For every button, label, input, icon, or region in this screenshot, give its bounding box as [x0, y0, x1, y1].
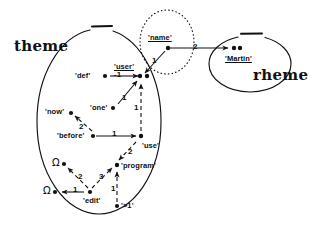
arc-label-before-now: 2 — [79, 122, 83, 131]
node-dot-program[interactable] — [115, 163, 119, 167]
node-dot-gt1[interactable] — [115, 204, 119, 208]
node-label-edit[interactable]: 'edit' — [83, 196, 101, 205]
node-dot-user[interactable] — [138, 74, 142, 78]
node-dot-omega1[interactable] — [62, 162, 66, 166]
edge-before-now — [75, 116, 92, 131]
arc-label-edit-omega2: 1 — [73, 185, 77, 194]
node-dot-user2[interactable] — [145, 74, 149, 78]
figure-canvas: theme rheme 'def' 'user' 'name' 'Martin'… — [0, 0, 315, 244]
arc-label-use-program: 2 — [128, 147, 132, 156]
node-dot-martin2[interactable] — [238, 46, 242, 50]
node-dot-before[interactable] — [91, 134, 95, 138]
arc-label-name-martin: 2 — [193, 42, 197, 51]
node-label-name[interactable]: 'name' — [148, 33, 172, 42]
node-label-omega1[interactable]: Ω — [52, 157, 60, 168]
arc-label-one-user: 1 — [122, 93, 126, 102]
node-dot-now[interactable] — [69, 111, 73, 115]
arc-label-def-user: -1 — [114, 70, 121, 79]
node-label-one[interactable]: 'one' — [90, 103, 107, 112]
edge-one-user — [118, 81, 137, 104]
node-label-gt1[interactable]: '>1' — [121, 201, 134, 210]
node-dot-use[interactable] — [139, 134, 143, 138]
arc-label-name-user: 1 — [152, 56, 156, 65]
node-label-use[interactable]: 'use' — [142, 141, 159, 150]
node-dot-def[interactable] — [103, 74, 107, 78]
node-label-now[interactable]: 'now' — [45, 107, 64, 116]
node-label-program[interactable]: 'program' — [121, 161, 156, 170]
node-dot-martin[interactable] — [232, 46, 236, 50]
arc-label-edit-omega1: 2 — [78, 172, 82, 181]
node-label-omega2[interactable]: Ω — [43, 185, 51, 196]
arc-label-gt1-program: 1 — [111, 184, 115, 193]
arc-label-edit-program: 3 — [99, 172, 103, 181]
node-label-def[interactable]: 'def' — [75, 71, 90, 80]
arc-label-before-use: 1 — [112, 129, 116, 138]
node-dot-edit[interactable] — [88, 190, 92, 194]
arc-label-use-user: 1 — [134, 103, 138, 112]
node-dot-omega2[interactable] — [53, 190, 57, 194]
node-label-martin[interactable]: 'Martin' — [225, 54, 252, 63]
node-label-before[interactable]: 'before' — [57, 131, 84, 140]
node-dot-name[interactable] — [166, 46, 170, 50]
region-theme-outline — [37, 26, 161, 214]
node-dot-one[interactable] — [111, 106, 115, 110]
